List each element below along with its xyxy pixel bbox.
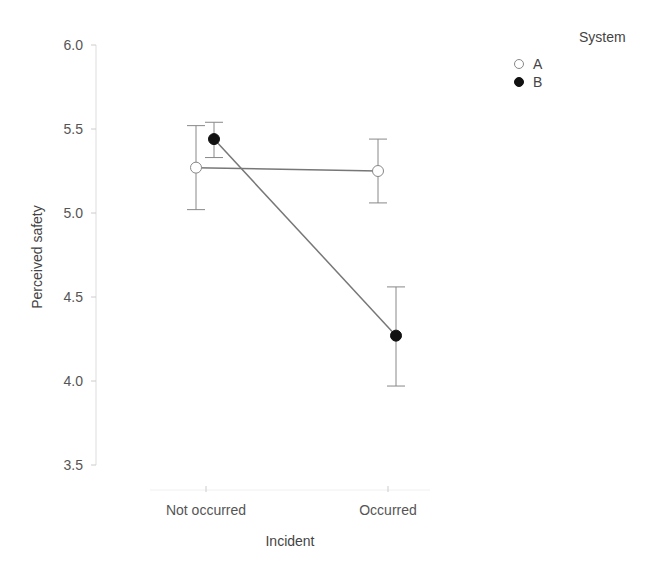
legend-item-b: B — [515, 74, 543, 90]
y-tick-label: 6.0 — [64, 37, 84, 53]
series-line — [214, 139, 396, 336]
open-circle-marker — [191, 162, 202, 173]
y-axis-title: Perceived safety — [29, 205, 45, 309]
y-tick-label: 4.5 — [64, 289, 84, 305]
x-tick-label: Occurred — [359, 502, 417, 518]
filled-circle-marker — [209, 134, 220, 145]
chart: 3.54.04.55.05.56.0 Not occurredOccurred … — [0, 0, 667, 577]
y-axis: 3.54.04.55.05.56.0 — [64, 37, 96, 473]
legend-title: System — [579, 29, 626, 45]
y-tick-label: 4.0 — [64, 373, 84, 389]
open-circle-icon — [515, 60, 524, 69]
open-circle-marker — [373, 166, 384, 177]
legend: System A B — [515, 29, 626, 90]
x-axis: Not occurredOccurred — [150, 486, 430, 518]
filled-circle-marker — [391, 330, 402, 341]
legend-label-a: A — [533, 56, 543, 72]
y-tick-label: 3.5 — [64, 457, 84, 473]
series-layer — [187, 122, 405, 386]
x-tick-label: Not occurred — [166, 502, 246, 518]
series-line — [196, 168, 378, 171]
y-tick-label: 5.0 — [64, 205, 84, 221]
filled-circle-icon — [515, 78, 524, 87]
y-tick-label: 5.5 — [64, 121, 84, 137]
x-axis-title: Incident — [265, 533, 314, 549]
legend-label-b: B — [533, 74, 542, 90]
legend-item-a: A — [515, 56, 544, 72]
series-b — [205, 122, 405, 386]
